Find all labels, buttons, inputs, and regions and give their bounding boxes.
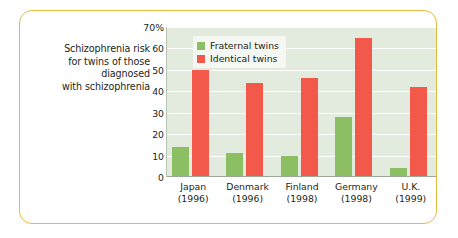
x-axis-year: (1996) — [220, 193, 274, 205]
y-axis-tick-label: 20 — [152, 129, 164, 140]
x-axis-category-label: Denmark(1996) — [220, 181, 274, 204]
x-axis-country: Finland — [275, 181, 329, 193]
bar-identical[interactable] — [301, 78, 318, 177]
y-axis-tick-label: 50 — [152, 64, 164, 75]
y-axis-tick-label: 10 — [152, 150, 164, 161]
legend-swatch-identical-icon — [197, 55, 205, 63]
x-axis-country: Japan — [166, 181, 220, 193]
x-axis-country: U.K. — [384, 181, 437, 193]
bar-fraternal[interactable] — [172, 147, 189, 177]
x-axis-category-label: Germany(1998) — [329, 181, 383, 204]
x-axis-category-label: U.K.(1999) — [384, 181, 437, 204]
x-axis-country: Denmark — [220, 181, 274, 193]
x-axis: Japan(1996)Denmark(1996)Finland(1998)Ger… — [166, 181, 437, 215]
y-axis-tick-label: 40 — [152, 86, 164, 97]
figure-frame: Schizophrenia risk for twins of those di… — [19, 10, 437, 224]
plot-area: Fraternal twins Identical twins — [166, 27, 437, 177]
x-axis-category-label: Japan(1996) — [166, 181, 220, 204]
y-axis-tick-label: 60 — [152, 43, 164, 54]
x-axis-category-label: Finland(1998) — [275, 181, 329, 204]
y-axis-tick-label: 70% — [143, 22, 164, 33]
legend-item-fraternal: Fraternal twins — [197, 39, 279, 52]
bar-group — [385, 27, 437, 177]
legend-swatch-fraternal-icon — [197, 42, 205, 50]
bar-identical[interactable] — [192, 70, 209, 177]
bar-fraternal[interactable] — [335, 117, 352, 177]
bar-fraternal[interactable] — [226, 153, 243, 177]
y-axis-tick-label: 30 — [152, 107, 164, 118]
legend-label-fraternal: Fraternal twins — [210, 40, 279, 51]
y-axis: 70%6050403020100 — [130, 27, 164, 177]
x-axis-year: (1998) — [275, 193, 329, 205]
bar-group — [330, 27, 384, 177]
y-axis-tick-label: 0 — [158, 172, 164, 183]
bar-identical[interactable] — [355, 38, 372, 177]
x-axis-year: (1998) — [329, 193, 383, 205]
legend-label-identical: Identical twins — [210, 53, 277, 64]
x-axis-line — [167, 176, 437, 177]
chart: 70%6050403020100 Fraternal twins Identic… — [166, 27, 437, 224]
x-axis-year: (1996) — [166, 193, 220, 205]
bar-identical[interactable] — [246, 83, 263, 177]
legend-item-identical: Identical twins — [197, 52, 279, 65]
bar-fraternal[interactable] — [281, 156, 298, 177]
bar-identical[interactable] — [410, 87, 427, 177]
x-axis-country: Germany — [329, 181, 383, 193]
x-axis-year: (1999) — [384, 193, 437, 205]
legend: Fraternal twins Identical twins — [193, 36, 286, 68]
